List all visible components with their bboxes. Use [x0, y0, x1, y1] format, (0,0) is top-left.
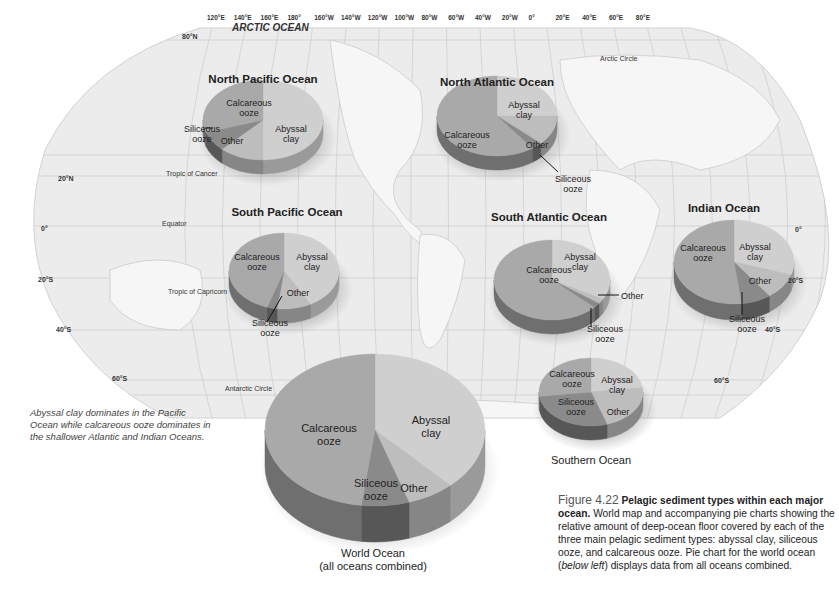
- lat-20n-label: 20°N: [58, 175, 74, 182]
- longitude-tick: 0°: [529, 14, 535, 21]
- lat-20s-label: 20°S: [38, 276, 53, 283]
- figure-body-italic: below left: [561, 560, 604, 571]
- figure-body-2: ) displays data from all oceans combined…: [604, 560, 791, 571]
- callout-label-siliceous: Siliceous ooze: [252, 318, 288, 338]
- slice-label-abyssal: Abyssal clay: [508, 100, 540, 120]
- equator-label: Equator: [162, 220, 187, 227]
- longitude-tick: 140°W: [341, 14, 361, 21]
- pie-title-north-atlantic: North Atlantic Ocean: [440, 76, 554, 88]
- pie-title-world: World Ocean (all oceans combined): [319, 547, 427, 573]
- pie-title-south-atlantic: South Atlantic Ocean: [491, 211, 607, 223]
- longitude-tick: 140°E: [234, 14, 252, 21]
- longitude-tick: 180°: [287, 14, 300, 21]
- arctic-ocean-label: ARCTIC OCEAN: [232, 22, 309, 33]
- callout-label-siliceous: Siliceous ooze: [555, 174, 591, 194]
- pie-title-north-pacific: North Pacific Ocean: [208, 73, 317, 85]
- longitude-tick: 40°E: [582, 14, 596, 21]
- callout-label-siliceous: Siliceous ooze: [587, 324, 623, 344]
- longitude-tick: 120°E: [207, 14, 225, 21]
- slice-label-abyssal: Abyssal clay: [275, 124, 307, 144]
- lat-0-label: 0°: [41, 225, 48, 232]
- slice-label-calcareous: Calcareous ooze: [301, 422, 357, 448]
- slice-label-other: Other: [526, 140, 549, 150]
- pie-title-southern: Southern Ocean: [551, 454, 631, 467]
- slice-label-abyssal: Abyssal clay: [296, 252, 328, 272]
- antarctic-circle-label: Antarctic Circle: [225, 385, 272, 392]
- longitude-tick: 100°W: [395, 14, 415, 21]
- slice-label-abyssal: Abyssal clay: [412, 414, 451, 440]
- slice-label-calcareous: Calcareous ooze: [444, 130, 490, 150]
- longitude-tick: 80°W: [421, 14, 437, 21]
- lat-60s-label: 60°S: [112, 375, 127, 382]
- slice-label-abyssal: Abyssal clay: [739, 242, 771, 262]
- longitude-tick: 60°E: [609, 14, 623, 21]
- lat-80n-label: 80°N: [182, 33, 198, 40]
- slice-label-calcareous: Calcareous ooze: [680, 243, 726, 263]
- tropic-of-cancer-label: Tropic of Cancer: [166, 170, 217, 177]
- longitude-tick: 20°W: [502, 14, 518, 21]
- slice-label-calcareous: Calcareous ooze: [226, 98, 272, 118]
- slice-label-other: Other: [400, 482, 428, 495]
- longitude-tick: 80°E: [636, 14, 650, 21]
- slice-label-siliceous: Siliceous ooze: [354, 477, 398, 503]
- slice-label-other: Other: [749, 276, 772, 286]
- slice-label-calcareous: Calcareous ooze: [549, 369, 595, 389]
- slice-label-other: Other: [287, 288, 310, 298]
- callout-label-other: Other: [621, 291, 644, 301]
- longitude-tick: 160°W: [314, 14, 334, 21]
- lat-40s-label: 40°S: [56, 326, 71, 333]
- slice-label-other: Other: [607, 407, 630, 417]
- longitude-tick: 60°W: [448, 14, 464, 21]
- callout-label-siliceous: Siliceous ooze: [729, 314, 765, 334]
- lat-40s-east-label: 40°S: [765, 326, 780, 333]
- lat-20s-east-label: 20°S: [788, 277, 803, 284]
- lat-0-east-label: 0°: [795, 226, 802, 233]
- arctic-circle-label: Arctic Circle: [600, 55, 637, 62]
- pie-title-south-pacific: South Pacific Ocean: [231, 206, 342, 218]
- longitude-tick: 160°E: [261, 14, 279, 21]
- figure-number: Figure 4.22: [558, 493, 619, 507]
- slice-label-siliceous: Siliceous ooze: [558, 397, 594, 417]
- figure-caption: Figure 4.22 Pelagic sediment types withi…: [558, 494, 836, 572]
- lat-60s-east-label: 60°S: [714, 377, 729, 384]
- slice-label-calcareous: Calcareous ooze: [526, 265, 572, 285]
- longitude-tick: 20°E: [555, 14, 569, 21]
- longitude-tick: 40°W: [475, 14, 491, 21]
- longitude-tick: 120°W: [368, 14, 388, 21]
- callout-label-siliceous: Siliceous ooze: [184, 124, 220, 144]
- slice-label-other: Other: [221, 136, 244, 146]
- pie-title-indian: Indian Ocean: [688, 202, 760, 214]
- slice-label-abyssal: Abyssal clay: [601, 375, 633, 395]
- slice-label-calcareous: Calcareous ooze: [234, 252, 280, 272]
- side-note: Abyssal clay dominates in the Pacific Oc…: [30, 407, 215, 443]
- tropic-of-capricorn-label: Tropic of Capricorn: [168, 288, 227, 295]
